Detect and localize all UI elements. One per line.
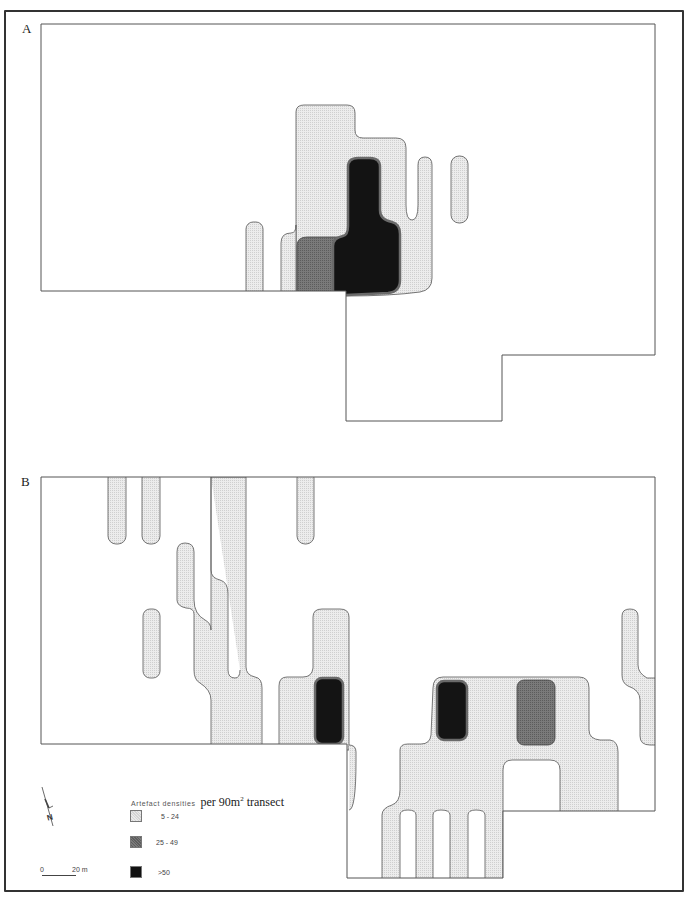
panel-a-low-density-area: [281, 225, 296, 296]
legend-swatch-medium: [130, 836, 142, 848]
scale-start-label: 0: [40, 866, 44, 873]
panel-b-low-density-area: [622, 609, 660, 745]
panel-b-low-density-area: [143, 609, 160, 678]
panel-b-low-density-area: [349, 745, 356, 810]
legend-item-medium: 25 - 49: [130, 836, 178, 848]
legend-title-prefix: per 90m: [201, 795, 241, 809]
panel-b-medium-density-area: [517, 680, 555, 745]
panel-b: [108, 470, 660, 880]
legend-title-large: per 90m2 transect: [201, 795, 284, 809]
density-map: [0, 0, 700, 905]
panel-b-low-density-area: [382, 677, 618, 880]
legend-swatch-high: [130, 866, 142, 878]
legend-label-low: 5 - 24: [161, 813, 179, 820]
panel-b-low-density-area: [177, 477, 262, 750]
legend-title: Artefact densitiesper 90m2 transect: [131, 792, 284, 810]
legend-item-low: 5 - 24: [130, 810, 179, 822]
legend-title-small: Artefact densities: [131, 800, 196, 807]
panel-a-low-density-area: [451, 156, 468, 223]
panel-b-low-density-area: [108, 470, 126, 544]
panel-b-high-density-area: [315, 678, 343, 744]
panel-b-gap: [400, 810, 485, 880]
legend-label-medium: 25 - 49: [156, 839, 178, 846]
panel-a: [246, 105, 468, 302]
legend-swatch-low: [130, 810, 142, 822]
panel-b-high-density-area: [437, 681, 467, 740]
panel-a-low-density-area: [246, 222, 263, 302]
legend-item-high: >50: [130, 866, 170, 878]
scale-end-label: 20 m: [72, 866, 88, 873]
panel-b-low-density-area: [142, 470, 160, 544]
legend-label-high: >50: [158, 869, 170, 876]
panel-b-low-density-area: [297, 470, 314, 544]
scale-bar-line: [42, 875, 76, 876]
legend-title-suffix: transect: [244, 795, 284, 809]
